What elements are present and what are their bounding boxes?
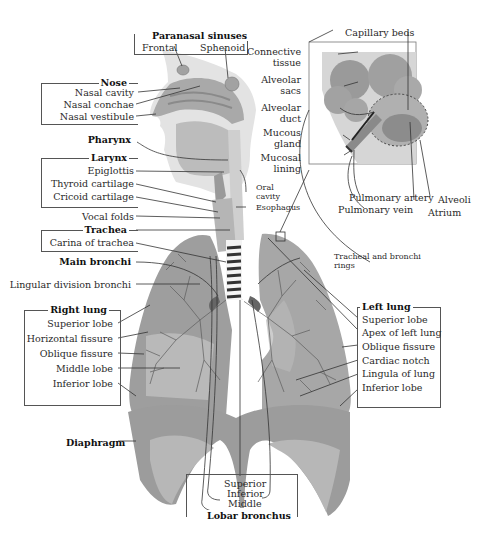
trachea	[226, 240, 242, 300]
label-mucosal-lining-2: lining	[274, 163, 301, 174]
left-lung-heading: Left lung	[360, 301, 413, 312]
label-atrium: Atrium	[428, 207, 461, 218]
label-middle-lobe: Middle lobe	[56, 363, 113, 374]
label-apex-of-left-lung: Apex of left lung	[362, 327, 442, 338]
label-nasal-vestibule: Nasal vestibule	[60, 111, 134, 122]
label-lingular-division-bronchi: Lingular division bronchi	[10, 279, 131, 290]
trachea-heading: Trachea	[83, 224, 129, 235]
anatomy-illustration	[0, 0, 491, 543]
diaphragm-heading: Diaphragm	[66, 437, 125, 448]
label-left-superior-lobe: Superior lobe	[362, 314, 428, 325]
label-right-superior-lobe: Superior lobe	[47, 318, 113, 329]
head-cross-section	[150, 50, 256, 252]
label-left-inferior-lobe: Inferior lobe	[362, 382, 422, 393]
label-connective-tissue-1: Connective	[247, 46, 301, 57]
label-capillary-beds: Capillary beds	[345, 27, 414, 38]
label-nasal-cavity: Nasal cavity	[75, 87, 134, 98]
label-pulmonary-artery: Pulmonary artery	[349, 192, 434, 203]
label-alveolar-sacs-2: sacs	[280, 85, 301, 96]
label-alveolar-duct-2: duct	[280, 113, 301, 124]
label-nasal-conchae: Nasal conchae	[64, 99, 134, 110]
label-frontal: Frontal	[142, 42, 178, 53]
label-alveolar-sacs-1: Alveolar	[261, 74, 301, 85]
label-lobar-middle: Middle	[228, 498, 262, 509]
paranasal-sinuses-heading: Paranasal sinuses	[150, 30, 249, 41]
label-alveolar-duct-1: Alveolar	[261, 102, 301, 113]
label-oral-cavity-line2: cavity	[256, 192, 280, 201]
label-thyroid-cartilage: Thyroid cartilage	[51, 178, 134, 189]
label-right-inferior-lobe: Inferior lobe	[53, 378, 113, 389]
label-mucous-gland-2: gland	[274, 138, 301, 149]
label-pulmonary-vein: Pulmonary vein	[338, 204, 413, 215]
label-vocal-folds: Vocal folds	[82, 211, 134, 222]
label-tracheal-rings-line2: rings	[334, 261, 355, 270]
label-mucosal-lining-1: Mucosal	[261, 152, 301, 163]
label-epiglottis: Epiglottis	[88, 165, 134, 176]
label-cricoid-cartilage: Cricoid cartilage	[53, 191, 134, 202]
label-left-oblique-fissure: Oblique fissure	[362, 341, 435, 352]
lobar-bronchus-heading: Lobar bronchus	[204, 510, 294, 521]
label-oral-cavity-line1: Oral	[256, 183, 274, 192]
larynx-heading: Larynx	[89, 152, 129, 163]
label-right-oblique-fissure: Oblique fissure	[40, 348, 113, 359]
label-tracheal-rings-line1: Tracheal and bronchi	[334, 252, 421, 261]
label-connective-tissue-2: tissue	[273, 57, 301, 68]
label-alveoli: Alveoli	[438, 194, 471, 205]
label-lingula-of-lung: Lingula of lung	[362, 368, 435, 379]
label-cardiac-notch: Cardiac notch	[362, 355, 430, 366]
right-lung-heading: Right lung	[48, 304, 109, 315]
label-sphenoid: Sphenoid	[200, 42, 245, 53]
main-bronchi-heading: Main bronchi	[59, 256, 131, 267]
label-horizontal-fissure: Horizontal fissure	[27, 333, 113, 344]
pharynx-heading: Pharynx	[88, 134, 131, 145]
respiratory-diagram: Paranasal sinuses Frontal Sphenoid Nose …	[0, 0, 491, 543]
label-mucous-gland-1: Mucous	[263, 127, 301, 138]
label-esophagus: Esophagus	[256, 203, 300, 212]
label-carina-of-trachea: Carina of trachea	[50, 237, 134, 248]
alveolus-inset	[309, 42, 428, 164]
